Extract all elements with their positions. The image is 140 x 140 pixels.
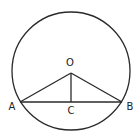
label-o: O	[66, 57, 74, 68]
label-b: B	[127, 101, 134, 112]
label-a: A	[9, 101, 16, 112]
label-c: C	[68, 105, 75, 116]
geometry-diagram: O A B C	[0, 0, 140, 140]
segment-ob	[71, 73, 122, 102]
segment-oa	[20, 73, 71, 102]
